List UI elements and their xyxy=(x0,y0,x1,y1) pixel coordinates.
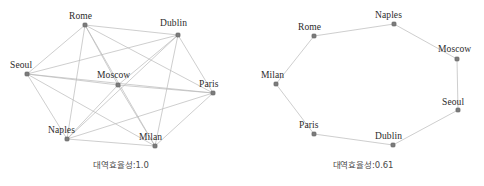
node-label-moscow: Moscow xyxy=(97,71,130,81)
graph-node-naples[interactable] xyxy=(65,137,69,141)
graph-node-milan[interactable] xyxy=(153,144,157,148)
graph-node-dublin[interactable] xyxy=(391,143,395,147)
caption-ring-graph: 대역효율성:0.61 xyxy=(242,158,484,170)
graph-panel-ring: 대역효율성:0.61 NaplesRomeMoscowMilanSeoulPar… xyxy=(242,0,484,186)
node-label-milan: Milan xyxy=(139,133,162,143)
graph-node-paris[interactable] xyxy=(312,132,316,136)
graph-edge xyxy=(67,25,85,139)
node-label-seoul: Seoul xyxy=(10,61,32,71)
graph-node-moscow[interactable] xyxy=(116,83,120,87)
node-label-rome: Rome xyxy=(69,12,92,22)
graph-edge xyxy=(314,24,394,36)
node-label-dublin: Dublin xyxy=(160,19,187,29)
node-label-seoul: Seoul xyxy=(442,98,464,108)
graph-node-dublin[interactable] xyxy=(176,33,180,37)
node-label-milan: Milan xyxy=(261,71,284,81)
node-label-naples: Naples xyxy=(375,11,402,21)
node-label-dublin: Dublin xyxy=(375,132,402,142)
node-label-rome: Rome xyxy=(298,23,321,33)
figure-canvas: 대역효율성:1.0 RomeDublinSeoulMoscowParisNapl… xyxy=(0,0,484,186)
graph-node-moscow[interactable] xyxy=(455,57,459,61)
caption-complete-graph: 대역효율성:1.0 xyxy=(0,158,242,170)
node-label-moscow: Moscow xyxy=(438,45,471,55)
graph-node-rome[interactable] xyxy=(83,23,87,27)
graph-edge xyxy=(67,35,178,139)
node-label-paris: Paris xyxy=(299,121,319,131)
node-label-paris: Paris xyxy=(199,80,219,90)
graph-panel-complete: 대역효율성:1.0 RomeDublinSeoulMoscowParisNapl… xyxy=(0,0,242,186)
graph-node-seoul[interactable] xyxy=(456,108,460,112)
graph-node-seoul[interactable] xyxy=(25,72,29,76)
graph-edge xyxy=(393,110,458,145)
graph-node-paris[interactable] xyxy=(211,91,215,95)
graph-node-rome[interactable] xyxy=(312,34,316,38)
graph-edge xyxy=(155,93,213,146)
graph-node-milan[interactable] xyxy=(274,82,278,86)
node-label-naples: Naples xyxy=(48,126,75,136)
graph-node-naples[interactable] xyxy=(392,22,396,26)
